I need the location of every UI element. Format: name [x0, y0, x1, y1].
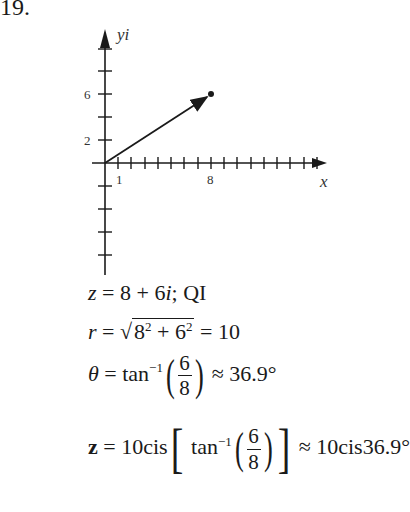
y-axis-label: yi [115, 25, 130, 44]
radicand: 82 + 62 [132, 318, 194, 345]
x-axis-arrow-icon [312, 158, 327, 168]
fraction-6-8: 68 [178, 352, 192, 399]
left-bracket-icon: [ [170, 422, 183, 476]
x-tick-label-1: 1 [116, 172, 123, 187]
right-paren-icon: ) [263, 427, 272, 471]
right-paren-icon: ) [195, 354, 204, 398]
left-paren-icon: ( [166, 354, 175, 398]
x-tick-label-8: 8 [207, 172, 214, 187]
sqrt-icon: √ [120, 319, 132, 344]
point-8-6 [208, 91, 214, 97]
x-axis-label: x [319, 172, 328, 191]
equation-theta: θ = tan−1(68) ≈ 36.9° [88, 352, 277, 399]
equation-z-polar: z = 10cis[ tan−1(68)] ≈ 10cis36.9° [88, 422, 410, 476]
y-axis-arrow-icon [100, 29, 110, 48]
vector-8-6 [105, 97, 207, 163]
right-bracket-icon: ] [278, 422, 291, 476]
complex-plane-plot: yi x 1 8 2 6 [0, 0, 399, 290]
y-tick-label-2: 2 [84, 133, 91, 148]
y-tick-label-6: 6 [84, 87, 91, 102]
fraction-6-8: 68 [247, 425, 261, 472]
equation-r: r = √82 + 62 = 10 [88, 318, 240, 345]
left-paren-icon: ( [235, 427, 244, 471]
equation-z: z = 8 + 6i; QI [88, 280, 206, 306]
